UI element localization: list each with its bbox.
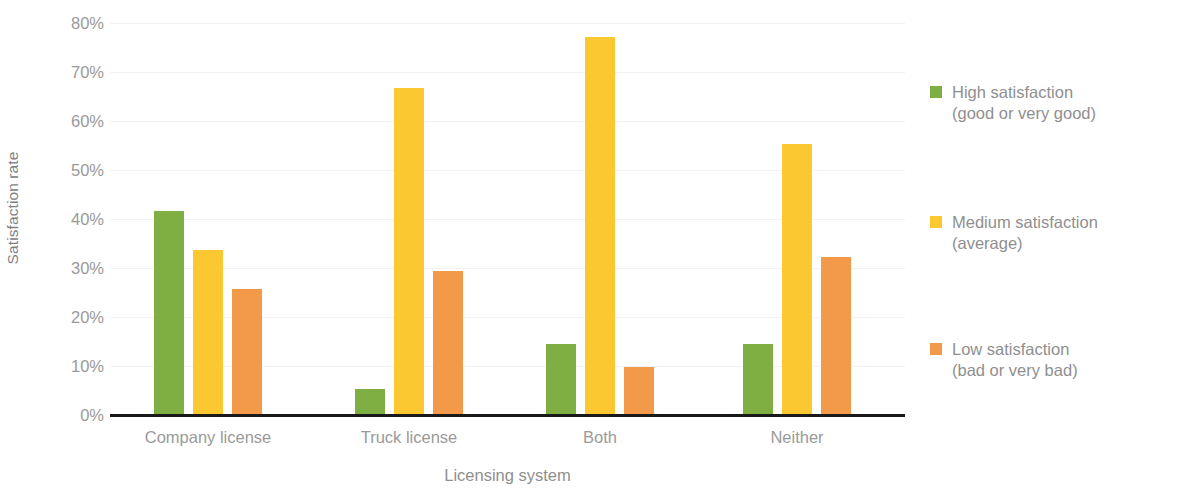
gridline [110,72,905,73]
y-axis-tick-label: 70% [28,64,104,81]
y-axis-tick-label: 50% [28,162,104,179]
legend-label: Medium satisfaction(average) [952,212,1098,254]
legend-label-line2: (good or very good) [952,103,1096,124]
bar[interactable] [394,88,424,414]
legend-label-line1: Low satisfaction [952,340,1069,358]
x-axis-tick-label: Both [583,428,617,448]
y-axis-tick-label: 60% [28,113,104,130]
x-axis-title: Licensing system [110,466,905,485]
bar-chart: Satisfaction rate 0%10%20%30%40%50%60%70… [0,0,1180,496]
x-axis-tick-label: Company license [145,428,272,448]
y-axis-tick-label: 10% [28,358,104,375]
bar[interactable] [546,344,576,414]
x-axis-tick-label: Truck license [361,428,458,448]
y-axis-title: Satisfaction rate [0,0,26,415]
gridline [110,23,905,24]
bar[interactable] [782,144,812,414]
x-axis-tick-label: Neither [770,428,823,448]
y-axis-title-text: Satisfaction rate [4,151,22,264]
legend-item[interactable]: High satisfaction(good or very good) [930,82,1180,124]
gridline [110,121,905,122]
bar[interactable] [624,367,654,414]
legend-label-line2: (average) [952,233,1098,254]
legend-swatch-icon [930,343,942,355]
bar[interactable] [154,211,184,414]
x-axis-tick-labels: Company licenseTruck licenseBothNeither [110,428,905,456]
x-axis-line [110,414,905,417]
legend-label-line1: High satisfaction [952,83,1073,101]
y-axis-tick-label: 80% [28,15,104,32]
y-axis-tick-label: 0% [28,407,104,424]
legend-label: High satisfaction(good or very good) [952,82,1096,124]
y-axis-tick-label: 40% [28,211,104,228]
legend-item[interactable]: Low satisfaction(bad or very bad) [930,339,1180,381]
y-axis-tick-label: 30% [28,260,104,277]
legend-label-line1: Medium satisfaction [952,213,1098,231]
y-axis-tick-label: 20% [28,309,104,326]
legend-swatch-icon [930,216,942,228]
bar[interactable] [355,389,385,414]
bar[interactable] [193,250,223,414]
legend: High satisfaction(good or very good)Medi… [930,0,1180,496]
legend-label-line2: (bad or very bad) [952,360,1078,381]
bar[interactable] [433,271,463,414]
bar[interactable] [232,289,262,414]
bar[interactable] [585,37,615,414]
legend-item[interactable]: Medium satisfaction(average) [930,212,1180,254]
y-axis-tick-labels: 0%10%20%30%40%50%60%70%80% [28,0,104,430]
legend-label: Low satisfaction(bad or very bad) [952,339,1078,381]
plot-area [110,0,905,415]
bar[interactable] [743,344,773,414]
legend-swatch-icon [930,86,942,98]
bar[interactable] [821,257,851,414]
